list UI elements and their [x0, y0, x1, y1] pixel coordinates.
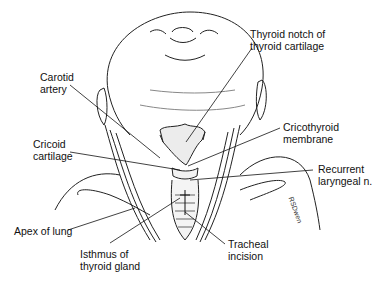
left-shoulder — [55, 174, 120, 210]
head-outline — [107, 12, 263, 135]
label-line: Isthmus of — [80, 248, 140, 260]
right-shoulder — [240, 157, 320, 230]
label-line: membrane — [283, 133, 339, 145]
mouth — [165, 55, 205, 60]
label-line: Apex of lung — [14, 225, 72, 237]
label-tracheal-incision: Tracheal incision — [228, 238, 268, 262]
label-line: thyroid cartilage — [250, 40, 325, 52]
label-line: Recurrent — [318, 163, 372, 175]
label-line: cartilage — [33, 150, 73, 162]
label-cricoid-cartilage: Cricoid cartilage — [33, 138, 73, 162]
label-line: Tracheal — [228, 238, 268, 250]
left-sternocleidomastoid — [105, 125, 160, 242]
left-ear — [97, 88, 107, 125]
label-thyroid-notch: Thyroid notch of thyroid cartilage — [250, 28, 325, 52]
label-line: thyroid gland — [80, 260, 140, 272]
label-line: artery — [40, 83, 74, 95]
label-recurrent-laryngeal: Recurrent laryngeal n. — [318, 163, 372, 187]
right-clavicle — [240, 180, 285, 200]
anatomy-diagram: Thyroid notch of thyroid cartilage Carot… — [0, 0, 383, 284]
label-line: incision — [228, 250, 268, 262]
label-cricothyroid-membrane: Cricothyroid membrane — [283, 121, 339, 145]
right-sternocleidomastoid — [196, 125, 240, 242]
label-line: laryngeal n. — [318, 175, 372, 187]
label-line: Cricoid — [33, 138, 73, 150]
label-line: Carotid — [40, 71, 74, 83]
nose — [170, 28, 196, 43]
right-ear — [256, 80, 266, 120]
label-line: Thyroid notch of — [250, 28, 325, 40]
label-carotid-artery: Carotid artery — [40, 71, 74, 95]
thyroid-cartilage — [160, 124, 205, 165]
label-line: Cricothyroid — [283, 121, 339, 133]
label-isthmus: Isthmus of thyroid gland — [80, 248, 140, 272]
label-apex-of-lung: Apex of lung — [14, 225, 72, 237]
